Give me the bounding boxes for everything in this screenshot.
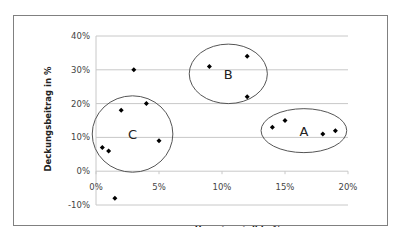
y-tick-label: 40% xyxy=(71,31,90,41)
y-tick-label: 0% xyxy=(77,166,91,176)
data-point xyxy=(283,118,288,123)
data-point xyxy=(144,101,149,106)
data-point xyxy=(245,94,250,99)
y-axis-title: Deckungsbeitrag in % xyxy=(43,66,53,171)
x-tick-label: 0% xyxy=(89,182,103,192)
data-point xyxy=(131,67,136,72)
data-point xyxy=(157,138,162,143)
y-tick-label: 10% xyxy=(71,132,90,142)
y-tick-label: -10% xyxy=(68,200,90,210)
x-tick-label: 20% xyxy=(339,182,358,192)
data-point xyxy=(245,54,250,59)
data-point xyxy=(270,125,275,130)
data-point xyxy=(333,128,338,133)
data-point xyxy=(112,196,117,201)
x-tick-label: 15% xyxy=(276,182,295,192)
y-tick-label: 20% xyxy=(71,99,90,109)
scatter-chart: 40%30%20%10%0%-10%0%5%10%15%20%Umsatzant… xyxy=(14,16,389,227)
cluster-label-c: C xyxy=(128,127,137,142)
y-tick-label: 30% xyxy=(71,65,90,75)
data-point xyxy=(207,64,212,69)
x-axis-title: Umsatzanteil in % xyxy=(195,225,282,227)
chart-frame: 40%30%20%10%0%-10%0%5%10%15%20%Umsatzant… xyxy=(13,15,388,226)
x-tick-label: 10% xyxy=(213,182,232,192)
data-point xyxy=(119,108,124,113)
data-point xyxy=(106,148,111,153)
cluster-label-b: B xyxy=(224,67,233,82)
data-point xyxy=(100,145,105,150)
x-tick-label: 5% xyxy=(152,182,166,192)
cluster-label-a: A xyxy=(299,124,308,139)
data-point xyxy=(320,132,325,137)
